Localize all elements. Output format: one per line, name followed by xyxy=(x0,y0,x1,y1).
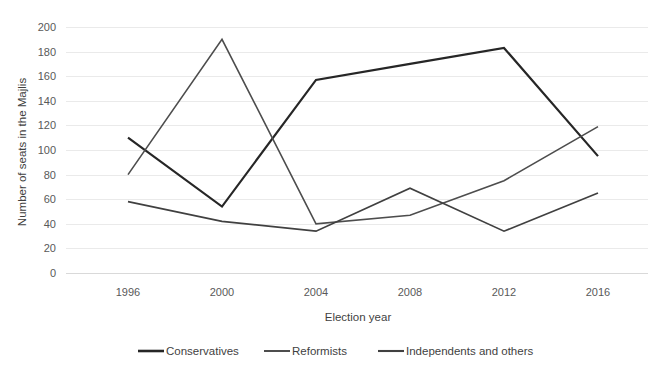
x-tick-label-2004: 2004 xyxy=(304,286,328,298)
x-tick-label-2016: 2016 xyxy=(586,286,610,298)
legend-label-conservatives: Conservatives xyxy=(166,345,239,357)
y-tick-label-40: 40 xyxy=(44,218,56,230)
y-tick-label-180: 180 xyxy=(38,46,56,58)
x-tick-label-2000: 2000 xyxy=(210,286,234,298)
y-tick-label-20: 20 xyxy=(44,242,56,254)
legend-label-independents-and-others: Independents and others xyxy=(406,345,533,357)
x-tick-label-1996: 1996 xyxy=(116,286,140,298)
y-tick-label-200: 200 xyxy=(38,21,56,33)
chart-legend: ConservativesReformistsIndependents and … xyxy=(138,345,533,357)
y-tick-label-80: 80 xyxy=(44,169,56,181)
x-tick-label-2012: 2012 xyxy=(492,286,516,298)
y-tick-label-0: 0 xyxy=(50,267,56,279)
x-tick-label-2008: 2008 xyxy=(398,286,422,298)
y-tick-label-140: 140 xyxy=(38,95,56,107)
y-tick-label-120: 120 xyxy=(38,119,56,131)
y-tick-label-160: 160 xyxy=(38,70,56,82)
x-axis-title: Election year xyxy=(325,311,392,323)
legend-label-reformists: Reformists xyxy=(292,345,347,357)
y-tick-label-100: 100 xyxy=(38,144,56,156)
chart-canvas: 200180160140120100806040200 199620002004… xyxy=(0,0,656,377)
y-axis-title: Number of seats in the Majlis xyxy=(16,78,28,227)
line-chart-figure: 200180160140120100806040200 199620002004… xyxy=(0,0,656,377)
y-tick-label-60: 60 xyxy=(44,193,56,205)
